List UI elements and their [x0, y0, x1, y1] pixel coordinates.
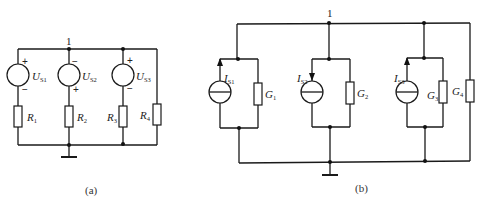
label-is3: IS3	[393, 72, 405, 85]
resistor-r3	[119, 106, 127, 127]
junction-dot	[422, 21, 426, 25]
label-r2: R2	[76, 111, 87, 124]
resistor-r4	[153, 104, 161, 125]
conductance-g3	[439, 81, 447, 103]
polarity-sign: +	[22, 56, 28, 67]
junction-dot	[237, 126, 241, 130]
label-us2: US2	[82, 70, 97, 83]
node-label-a: 1	[66, 35, 72, 47]
circuit-b: 1 IS1 IS2 IS3 G1 G2 G3 G4 (b)	[209, 7, 474, 195]
junction-dot	[328, 160, 332, 164]
junction-dot	[423, 159, 427, 163]
node-label-b: 1	[327, 7, 333, 19]
junction-dot	[236, 57, 240, 61]
polarity-sign: +	[127, 55, 133, 66]
label-us1: US1	[32, 70, 47, 83]
junction-dot	[328, 125, 332, 129]
label-g3: G3	[427, 89, 438, 102]
junction-dot	[121, 47, 125, 51]
label-g2: G2	[357, 87, 368, 100]
junction-dot	[423, 125, 427, 129]
label-us3: US3	[136, 70, 151, 83]
junction-dot	[327, 57, 331, 61]
label-r1: R1	[26, 111, 37, 124]
circuit-figure: 1 + − − + + − US1 US2 US3 R1 R2 R3 R4 (a…	[0, 0, 484, 205]
label-r4: R4	[139, 109, 151, 122]
bottom-rail-b	[239, 161, 470, 163]
label-r3: R3	[106, 111, 117, 124]
polarity-sign: −	[127, 83, 133, 94]
conductance-g2	[346, 82, 354, 104]
voltage-source-us1	[7, 64, 29, 86]
junction-dot	[422, 56, 426, 60]
conductance-g4	[466, 80, 474, 102]
arrow-down-icon	[309, 73, 315, 81]
resistor-r2	[65, 106, 73, 127]
node-1-dot-b	[327, 21, 331, 25]
polarity-sign: −	[72, 56, 78, 67]
voltage-source-us2	[58, 64, 80, 86]
top-rail-b	[237, 23, 470, 24]
caption-b: (b)	[355, 182, 368, 195]
node-1-dot-a	[67, 47, 71, 51]
circuit-a: 1 + − − + + − US1 US2 US3 R1 R2 R3 R4 (a…	[7, 35, 161, 197]
label-g1: G1	[265, 88, 276, 101]
label-g4: G4	[452, 85, 464, 98]
polarity-sign: −	[22, 84, 28, 95]
caption-a: (a)	[85, 184, 98, 197]
junction-dot	[121, 142, 125, 146]
label-is1: IS1	[223, 72, 235, 85]
polarity-sign: +	[73, 84, 79, 95]
resistor-r1	[14, 106, 22, 127]
conductance-g1	[254, 83, 262, 105]
label-is2: IS2	[296, 72, 308, 85]
